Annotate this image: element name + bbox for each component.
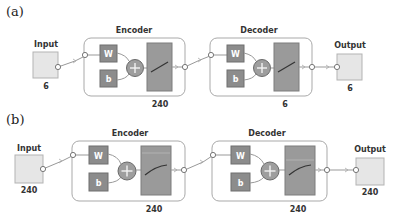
input-box <box>33 52 58 78</box>
autoencoder-diagram: (a) Input 6 Encoder W b <box>0 0 397 224</box>
weight-label: W <box>231 50 240 59</box>
output-port <box>309 64 314 69</box>
output-port <box>182 64 187 69</box>
weight-label: W <box>104 50 113 59</box>
panel-label: (b) <box>6 112 24 127</box>
input-port <box>210 152 215 157</box>
connection-wire <box>187 56 210 66</box>
panel-label: (a) <box>6 4 24 19</box>
bias-label: b <box>238 179 244 188</box>
input-port <box>82 52 87 57</box>
output-node: Output 6 <box>334 41 366 93</box>
input-port <box>353 167 358 172</box>
arrow-icon <box>200 160 203 164</box>
encoder-title: Encoder <box>116 26 153 35</box>
output-node: Output 240 <box>353 145 386 197</box>
input-node: Input 6 <box>33 40 58 91</box>
encoder-size: 240 <box>146 205 163 214</box>
transfer-function-box <box>141 146 171 195</box>
input-node: Input 240 <box>15 144 43 195</box>
output-box <box>356 158 384 185</box>
decoder-title: Decoder <box>240 26 277 35</box>
output-port <box>181 167 186 172</box>
output-port <box>324 167 329 172</box>
decoder-size: 240 <box>290 205 307 214</box>
connection-wire <box>58 56 85 67</box>
transfer-function-box <box>285 146 315 195</box>
encoder-size: 240 <box>152 100 169 109</box>
decoder-layer: Decoder W b 240 <box>210 129 329 214</box>
bias-label: b <box>233 75 239 84</box>
connection-wire <box>187 156 212 169</box>
output-port <box>55 64 60 69</box>
output-title: Output <box>354 145 386 154</box>
input-port <box>70 152 75 157</box>
output-size: 240 <box>362 188 379 197</box>
connection-wire <box>43 156 72 169</box>
bias-label: b <box>96 179 102 188</box>
bias-label: b <box>106 75 112 84</box>
output-box <box>337 54 362 80</box>
arrow-icon <box>59 159 62 163</box>
input-title: Input <box>17 144 41 153</box>
decoder-title: Decoder <box>248 129 285 138</box>
panel-a: (a) Input 6 Encoder W b <box>6 4 366 109</box>
weight-label: W <box>94 152 103 161</box>
input-size: 240 <box>21 186 38 195</box>
output-port <box>40 166 45 171</box>
panel-b: (b) Input 240 Encoder W b <box>6 112 386 214</box>
encoder-title: Encoder <box>112 129 149 138</box>
decoder-size: 6 <box>282 100 288 109</box>
encoder-layer: Encoder W b 240 <box>70 129 186 214</box>
weight-label: W <box>236 152 245 161</box>
input-size: 6 <box>43 82 49 91</box>
input-title: Input <box>34 40 58 49</box>
input-box <box>15 155 43 183</box>
output-title: Output <box>334 41 366 50</box>
input-port <box>208 52 213 57</box>
input-port <box>334 64 339 69</box>
decoder-layer: Decoder W b 6 <box>208 26 314 109</box>
encoder-layer: Encoder W b 240 <box>82 26 187 109</box>
output-size: 6 <box>347 84 353 93</box>
